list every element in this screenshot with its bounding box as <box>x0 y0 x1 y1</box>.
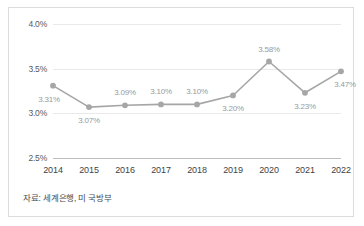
x-tick-2014: 2014 <box>43 165 63 175</box>
data-point-2019 <box>230 93 236 99</box>
source-note: 자료: 세계은행, 미 국방부 <box>23 191 112 203</box>
data-label-2021: 3.23% <box>294 101 316 110</box>
x-tick-2015: 2015 <box>79 165 99 175</box>
data-label-2019: 3.20% <box>222 104 244 113</box>
x-tick-2019: 2019 <box>223 165 243 175</box>
x-tick-2018: 2018 <box>187 165 207 175</box>
gridline-2.5 <box>53 158 341 159</box>
data-point-2022 <box>338 68 344 74</box>
x-tick-2017: 2017 <box>151 165 171 175</box>
y-tick-2.5: 2.5% <box>28 153 47 163</box>
data-label-2022: 3.47% <box>334 80 356 89</box>
data-point-2017 <box>158 102 164 108</box>
data-point-2014 <box>50 83 56 89</box>
x-tick-2022: 2022 <box>331 165 351 175</box>
y-tick-3.5: 3.5% <box>28 64 47 74</box>
y-tick-3.0: 3.0% <box>28 108 47 118</box>
data-label-2018: 3.10% <box>186 87 208 96</box>
data-label-2014: 3.31% <box>38 94 60 103</box>
series-line <box>53 62 341 108</box>
y-tick-4.0: 4.0% <box>28 19 47 29</box>
x-tick-2021: 2021 <box>295 165 315 175</box>
chart-card: 2.5%3.0%3.5%4.0% 20142015201620172018201… <box>8 7 354 217</box>
data-label-2016: 3.09% <box>114 88 136 97</box>
data-label-2017: 3.10% <box>150 87 172 96</box>
data-point-2018 <box>194 102 200 108</box>
data-point-2021 <box>302 90 308 96</box>
data-label-2020: 3.58% <box>258 44 280 53</box>
data-label-2015: 3.07% <box>78 116 100 125</box>
data-point-2015 <box>86 104 92 110</box>
data-point-2016 <box>122 102 128 108</box>
x-tick-2020: 2020 <box>259 165 279 175</box>
x-tick-2016: 2016 <box>115 165 135 175</box>
plot-area: 2.5%3.0%3.5%4.0% 20142015201620172018201… <box>53 24 341 158</box>
data-point-2020 <box>266 59 272 65</box>
